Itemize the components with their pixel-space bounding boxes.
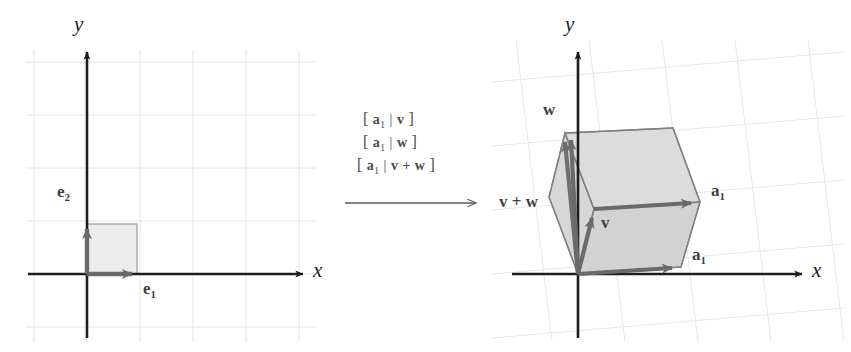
vector-label-e1-base: e <box>143 279 151 298</box>
matrix-second-1: v <box>397 112 405 127</box>
matrix-second-3: v + w <box>391 158 426 173</box>
vector-label-e1-sub: 1 <box>151 288 157 300</box>
unit-square <box>87 224 137 274</box>
vector-label-v-plus-w: v + w <box>499 192 538 212</box>
matrix-first-sub-3: 1 <box>374 166 379 176</box>
vector-label-a1-upper-sub: 1 <box>720 190 726 202</box>
matrix-open-bracket-2: [ <box>363 133 369 150</box>
vector-label-e1: e1 <box>143 279 156 300</box>
left-x-axis-label: x <box>313 258 322 283</box>
linear-transformation-figure: y x e1 e2 [ a1 | v ] [ a1 | w ] [ a1 | v… <box>0 0 851 352</box>
left-y-axis-label: y <box>74 12 83 37</box>
figure-graphics <box>0 0 851 352</box>
matrix-close-bracket-2: ] <box>412 133 418 150</box>
matrix-second-2: w <box>397 135 408 150</box>
matrix-close-bracket-3: ] <box>429 156 435 173</box>
vector-label-e2-sub: 2 <box>65 191 71 203</box>
vector-label-w: w <box>543 100 555 120</box>
vector-label-a1-lower-sub: 1 <box>701 254 707 266</box>
vector-label-a1-lower: a1 <box>692 245 706 266</box>
matrix-bar-2: | <box>390 135 393 150</box>
matrix-label-row-1: [ a1 | v ] <box>363 110 414 130</box>
vector-label-a1-upper: a1 <box>711 181 725 202</box>
matrix-first-sub-1: 1 <box>380 120 385 130</box>
vector-label-a1-lower-base: a <box>692 245 701 264</box>
vector-label-v: v <box>601 213 610 233</box>
vector-label-a1-upper-base: a <box>711 181 720 200</box>
matrix-bar-3: | <box>384 158 387 173</box>
matrix-label-row-2: [ a1 | w ] <box>363 133 417 153</box>
matrix-label-row-3: [ a1 | v + w ] <box>357 156 435 176</box>
matrix-bar-1: | <box>390 112 393 127</box>
right-x-axis-label: x <box>812 258 821 283</box>
right-y-axis-label: y <box>565 12 574 37</box>
vector-label-e2: e2 <box>57 182 70 203</box>
matrix-open-bracket-3: [ <box>357 156 363 173</box>
matrix-close-bracket-1: ] <box>408 110 414 127</box>
matrix-open-bracket-1: [ <box>363 110 369 127</box>
matrix-first-sub-2: 1 <box>380 143 385 153</box>
vector-label-e2-base: e <box>57 182 65 201</box>
